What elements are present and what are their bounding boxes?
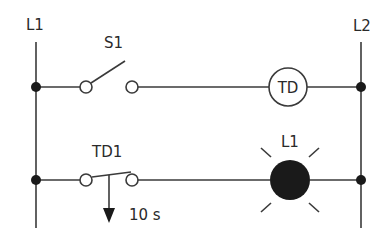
timed-contact-label: TD1 xyxy=(91,143,122,161)
ladder-diagram: L1 L2 S1 TD xyxy=(0,0,388,237)
contact-terminal xyxy=(126,81,138,93)
rung-1: S1 TD xyxy=(31,34,366,106)
contact-terminal xyxy=(80,81,92,93)
junction-dot xyxy=(31,175,41,185)
contact-bar xyxy=(92,172,131,177)
timer-coil-label: TD xyxy=(277,79,299,97)
switch-s1-label: S1 xyxy=(104,34,123,52)
right-rail-label: L2 xyxy=(353,17,371,35)
switch-lever xyxy=(91,61,125,83)
rung-2: TD1 10 s L1 xyxy=(31,133,366,224)
junction-dot xyxy=(31,82,41,92)
junction-dot xyxy=(356,82,366,92)
contact-terminal xyxy=(80,174,92,186)
lamp-label: L1 xyxy=(281,133,299,151)
contact-terminal xyxy=(126,174,138,186)
lamp-icon xyxy=(270,160,310,200)
junction-dot xyxy=(356,175,366,185)
delay-label: 10 s xyxy=(129,206,161,224)
arrow-down-icon xyxy=(103,208,115,223)
right-rail: L2 xyxy=(353,17,371,228)
left-rail: L1 xyxy=(26,16,44,228)
timed-contact-td1: TD1 10 s xyxy=(80,143,161,224)
timer-coil-td: TD xyxy=(269,68,307,106)
lamp-l1: L1 xyxy=(261,133,319,212)
left-rail-label: L1 xyxy=(26,16,44,34)
switch-s1: S1 xyxy=(80,34,138,93)
